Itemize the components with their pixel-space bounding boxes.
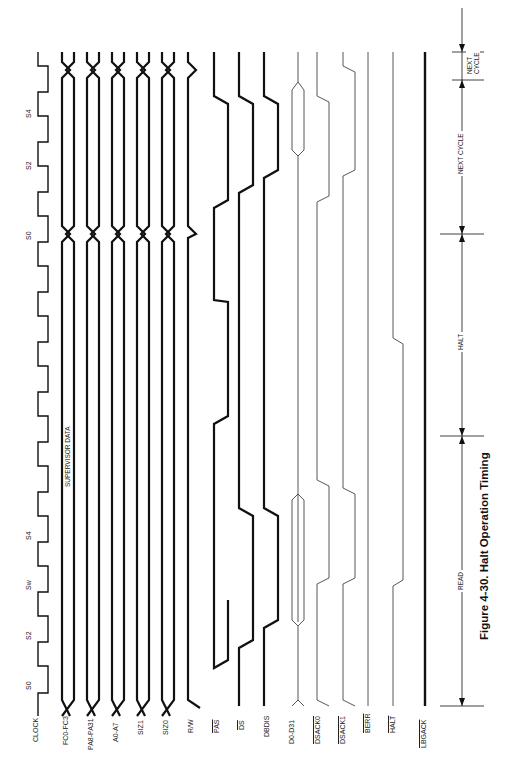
signal-label-siz1: SIZ1 (137, 720, 144, 735)
timing-diagram (0, 0, 512, 770)
signal-label-lbgack: LBGACK (420, 720, 427, 748)
clock-waveform (38, 52, 48, 716)
figure-caption: Figure 4-30. Halt Operation Timing (478, 452, 490, 640)
signal-label-data: D0-D31 (288, 720, 295, 744)
signal-label-ds: DS (238, 720, 245, 730)
signal-label-a0: A0-A7 (112, 723, 119, 742)
signal-label-berr: BERR (364, 714, 371, 733)
state-label-s4-next: S4 (25, 109, 32, 118)
signal-label-siz0: SIZ0 (162, 720, 169, 735)
rw-waveform (188, 52, 200, 708)
signal-label-rw: R/W (187, 719, 194, 733)
state-label-s2-next: S2 (25, 161, 32, 170)
phase-label-read: READ (457, 570, 464, 592)
signal-label-pas: PAS (213, 720, 220, 734)
state-label-sw: Sw (25, 580, 32, 590)
pas-waveform (214, 52, 228, 668)
bus-signals (62, 52, 174, 716)
phase-label-next-cycle: NEXT CYCLE (457, 131, 464, 176)
dbdis-waveform (264, 52, 278, 706)
phase-label-next-cycle-short: NEXTCYCLE (466, 50, 480, 76)
signal-label-dsack1: DSACK1 (339, 716, 346, 744)
state-label-s0-next: S0 (25, 231, 32, 240)
next-cycle-line1: NEXT (466, 57, 473, 74)
dsack0-waveform (317, 52, 329, 706)
phase-label-halt: HALT (457, 332, 464, 352)
signal-label-fc: FC0-FC3 (62, 716, 69, 745)
next-cycle-line2: CYCLE (473, 52, 480, 74)
signal-label-halt: HALT (389, 716, 396, 733)
state-label-s4: S4 (25, 531, 32, 540)
state-label-s0: S0 (25, 681, 32, 690)
supervisor-data-annotation: SUPERVISOR DATA (64, 426, 71, 487)
ds-waveform (239, 52, 253, 706)
signal-label-clock: CLOCK (32, 718, 39, 742)
data-bus-waveform (292, 52, 304, 706)
state-label-s2: S2 (25, 631, 32, 640)
dsack1-waveform (343, 52, 355, 706)
signal-label-dbdis: DBDIS (263, 716, 270, 737)
signal-label-dsack0: DSACK0 (314, 716, 321, 744)
halt-waveform (393, 52, 403, 706)
signal-label-pa: PA8-PA31 (87, 718, 94, 750)
